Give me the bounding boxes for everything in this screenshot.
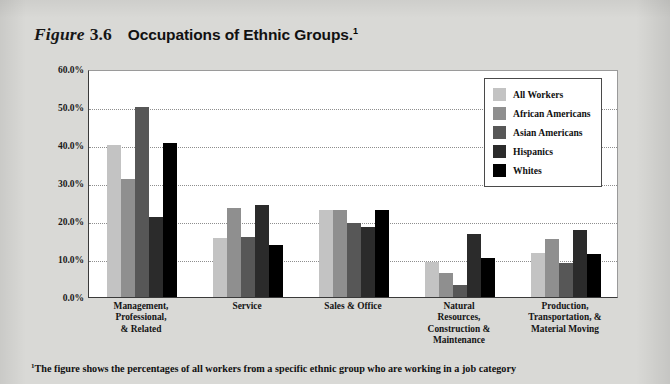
bar[interactable] bbox=[481, 258, 495, 297]
x-axis-category-label: Management,Professional,& Related bbox=[88, 301, 194, 335]
bar[interactable] bbox=[269, 245, 283, 297]
x-axis-category-label: Sales & Office bbox=[300, 301, 406, 312]
figure-title-footnote-marker: 1 bbox=[353, 26, 358, 36]
bar[interactable] bbox=[227, 208, 241, 297]
bar[interactable] bbox=[213, 238, 227, 297]
figure-footnote: 1The figure shows the percentages of all… bbox=[31, 362, 641, 374]
y-axis-tick-label: 0.0% bbox=[63, 293, 84, 303]
bar[interactable] bbox=[573, 230, 587, 297]
legend-item[interactable]: Hispanics bbox=[493, 142, 595, 161]
bar[interactable] bbox=[333, 210, 347, 297]
legend-item[interactable]: All Workers bbox=[493, 85, 595, 104]
figure-title-text: Occupations of Ethnic Groups. bbox=[128, 26, 353, 43]
bar-group bbox=[301, 71, 407, 297]
legend-item[interactable]: African Americans bbox=[493, 104, 595, 123]
legend-item[interactable]: Whites bbox=[493, 161, 595, 180]
bar-group bbox=[89, 71, 195, 297]
bar[interactable] bbox=[149, 217, 163, 297]
legend-label: Hispanics bbox=[513, 146, 553, 157]
x-axis-category-label: Service bbox=[194, 301, 300, 312]
x-axis-category-labels: Management,Professional,& RelatedService… bbox=[88, 301, 618, 359]
legend-label: All Workers bbox=[513, 89, 563, 100]
legend-label: Asian Americans bbox=[513, 127, 583, 138]
x-axis-category-label: Production,Transportation, &Material Mov… bbox=[512, 301, 618, 335]
bar[interactable] bbox=[375, 210, 389, 297]
bar[interactable] bbox=[425, 262, 439, 297]
legend-swatch bbox=[493, 107, 506, 120]
bar[interactable] bbox=[361, 227, 375, 297]
legend-swatch bbox=[493, 145, 506, 158]
bar[interactable] bbox=[439, 273, 453, 297]
bar[interactable] bbox=[135, 107, 149, 297]
x-axis-category-label: NaturalResources,Construction &Maintenan… bbox=[406, 301, 512, 347]
legend-label: Whites bbox=[513, 165, 542, 176]
y-axis-tick-label: 10.0% bbox=[58, 255, 84, 265]
bar[interactable] bbox=[545, 239, 559, 297]
y-axis-tick-label: 40.0% bbox=[58, 141, 84, 151]
bar[interactable] bbox=[107, 145, 121, 297]
y-axis-tick-label: 50.0% bbox=[58, 103, 84, 113]
bar-group bbox=[195, 71, 301, 297]
y-axis-tick-label: 20.0% bbox=[58, 217, 84, 227]
bar[interactable] bbox=[467, 234, 481, 297]
bar[interactable] bbox=[559, 263, 573, 297]
legend: All WorkersAfrican AmericansAsian Americ… bbox=[484, 78, 602, 187]
figure-page: Figure3.6Occupations of Ethnic Groups.1 … bbox=[0, 0, 670, 384]
footnote-text: The figure shows the percentages of all … bbox=[35, 363, 517, 374]
bar[interactable] bbox=[163, 143, 177, 297]
y-axis-tick-label: 30.0% bbox=[58, 179, 84, 189]
legend-item[interactable]: Asian Americans bbox=[493, 123, 595, 142]
y-axis: 0.0%10.0%20.0%30.0%40.0%50.0%60.0% bbox=[34, 70, 84, 298]
legend-swatch bbox=[493, 88, 506, 101]
bar[interactable] bbox=[587, 254, 601, 297]
bar[interactable] bbox=[255, 205, 269, 297]
legend-label: African Americans bbox=[513, 108, 591, 119]
bar[interactable] bbox=[319, 210, 333, 297]
legend-swatch bbox=[493, 164, 506, 177]
bar[interactable] bbox=[121, 179, 135, 297]
bar[interactable] bbox=[241, 237, 255, 297]
bar[interactable] bbox=[453, 285, 467, 297]
bar[interactable] bbox=[347, 223, 361, 297]
figure-title-bar: Figure3.6Occupations of Ethnic Groups.1 bbox=[34, 24, 358, 45]
bar[interactable] bbox=[531, 253, 545, 297]
figure-label: Figure bbox=[34, 24, 85, 44]
figure-number: 3.6 bbox=[90, 24, 112, 44]
y-axis-tick-label: 60.0% bbox=[58, 65, 84, 75]
legend-swatch bbox=[493, 126, 506, 139]
